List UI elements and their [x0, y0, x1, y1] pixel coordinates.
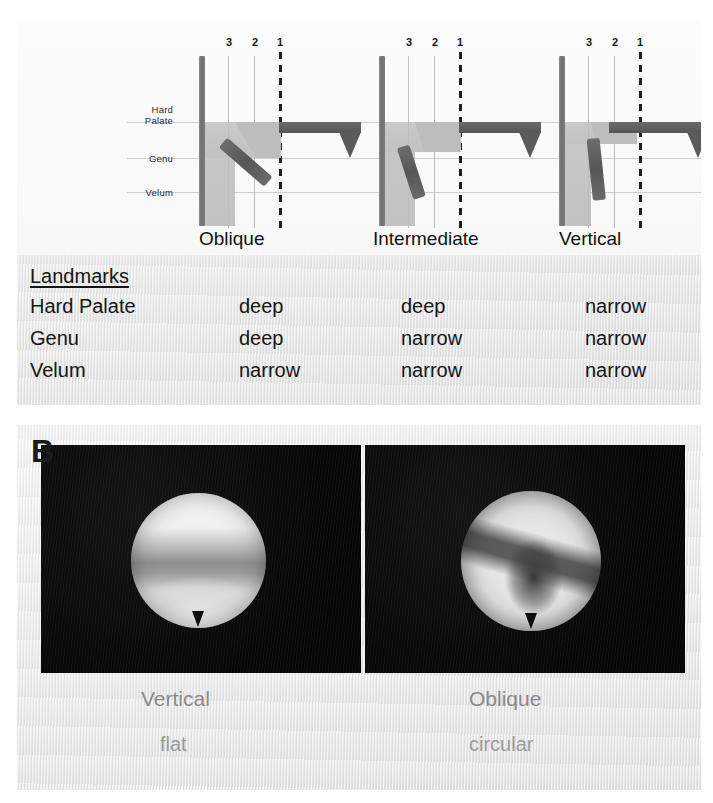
table-cell-hard-palate-intermediate: deep [401, 295, 446, 318]
endoscopic-caption-oblique: Oblique [469, 687, 541, 711]
endoscope-field-of-view [461, 491, 601, 631]
table-cell-velum-oblique: narrow [239, 359, 300, 382]
table-row-label-velum: Velum [30, 359, 86, 382]
table-cell-genu-oblique: deep [239, 327, 284, 350]
guide-number-1: 1 [633, 36, 647, 48]
endoscope-field-of-view [131, 493, 266, 628]
schematic-vertical: 3 2 1 Vertical [545, 20, 701, 255]
panel-b-letter: B [31, 435, 54, 467]
axis-label-genu: Genu [127, 153, 173, 164]
hard-palate-tip [687, 132, 701, 158]
table-cell-genu-vertical: narrow [585, 327, 646, 350]
panel-b: B Vertical flat Oblique circular [17, 425, 701, 790]
panel-a: A Hard Palate Genu Velum 3 2 1 [17, 20, 701, 405]
schematic-caption-vertical: Vertical [559, 228, 621, 250]
schematic-diagram-field: Hard Palate Genu Velum 3 2 1 Oblique [17, 20, 701, 255]
table-cell-hard-palate-vertical: narrow [585, 295, 646, 318]
guide-number-1: 1 [273, 36, 287, 48]
schematic-caption-intermediate: Intermediate [373, 228, 479, 250]
schematic-oblique: 3 2 1 Oblique [185, 20, 375, 255]
guide-line-3 [408, 56, 409, 228]
axis-label-velum: Velum [127, 187, 173, 198]
guide-number-3: 3 [582, 36, 596, 48]
schematic-intermediate: 3 2 1 Intermediate [365, 20, 555, 255]
schematic-caption-oblique: Oblique [199, 228, 265, 250]
endoscopic-image-oblique [365, 445, 685, 673]
guide-number-1: 1 [453, 36, 467, 48]
guide-number-3: 3 [402, 36, 416, 48]
table-cell-hard-palate-oblique: deep [239, 295, 284, 318]
table-row-label-hard-palate: Hard Palate [30, 295, 136, 318]
hard-palate-tip [519, 132, 541, 158]
table-cell-genu-intermediate: narrow [401, 327, 462, 350]
landmarks-table: Landmarks Hard Palate Genu Velum deep de… [17, 255, 701, 405]
guide-number-2: 2 [428, 36, 442, 48]
axis-label-hard-palate: Hard Palate [127, 104, 173, 126]
guide-number-2: 2 [608, 36, 622, 48]
landmarks-table-title: Landmarks [30, 265, 129, 288]
endoscope-notch [525, 613, 537, 629]
endoscopic-caption-vertical: Vertical [141, 687, 210, 711]
hard-palate-tip [339, 132, 361, 158]
guide-number-2: 2 [248, 36, 262, 48]
table-row-label-genu: Genu [30, 327, 79, 350]
table-cell-velum-vertical: narrow [585, 359, 646, 382]
endoscopic-image-vertical [41, 445, 361, 673]
guide-line-1-dashed [639, 52, 642, 230]
guide-number-3: 3 [222, 36, 236, 48]
endoscopic-subcaption-flat: flat [160, 733, 187, 756]
endoscopic-subcaption-circular: circular [469, 733, 533, 756]
table-cell-velum-intermediate: narrow [401, 359, 462, 382]
endoscope-notch [192, 611, 204, 627]
